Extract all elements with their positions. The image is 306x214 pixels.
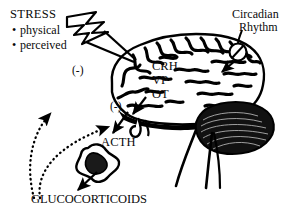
bullet-icon: • [12, 24, 20, 37]
stress-title: STRESS [10, 8, 56, 22]
stress-item-perceived: •perceived [12, 39, 67, 52]
circadian-line-2: Rhythm [232, 21, 279, 34]
stress-item-physical: •physical [12, 24, 60, 37]
inhibition-sign-pituitary: (-) [110, 100, 122, 112]
adrenal-gland-icon [76, 144, 119, 190]
hpa-axis-diagram: STRESS •physical •perceived Circadian Rh… [0, 0, 306, 214]
acth-label: ACTH [101, 136, 136, 150]
circadian-line-1: Circadian [232, 7, 279, 21]
circadian-rhythm-label: Circadian Rhythm [232, 8, 279, 34]
peptide-label-ot: OT [152, 88, 169, 102]
stress-item-label: perceived [20, 38, 67, 52]
peptide-label-crh: CRH [152, 60, 178, 74]
inhibition-sign-brain: (-) [72, 64, 84, 76]
acth-arrow [113, 112, 128, 133]
stress-item-label: physical [20, 23, 60, 37]
peptide-label-vp: VP [152, 74, 168, 88]
glucocorticoids-label: GLUCOCORTICOIDS [31, 193, 147, 207]
bullet-icon: • [12, 39, 20, 52]
